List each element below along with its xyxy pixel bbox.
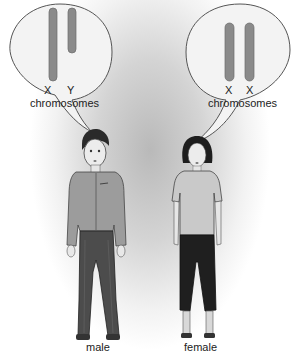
female-label: female — [184, 341, 217, 353]
right-chromosomes-caption: chromosomes — [208, 97, 277, 109]
right-speech-bubble — [186, 4, 290, 142]
male-figure — [67, 129, 126, 340]
left-speech-bubble — [10, 4, 112, 132]
x-chromosome-label: X — [246, 84, 253, 96]
sex-chromosome-diagram: X Y chromosomes X X chromosomes male fem… — [0, 0, 294, 358]
y-chromosome-label: Y — [67, 84, 74, 96]
x-chromosome-icon — [49, 8, 57, 81]
y-chromosome-icon — [68, 8, 76, 53]
x-chromosome-icon — [245, 23, 254, 81]
left-chromosomes-caption: chromosomes — [30, 97, 99, 109]
male-label: male — [86, 341, 110, 353]
female-figure — [172, 136, 222, 338]
illustration — [0, 0, 294, 358]
x-chromosome-label: X — [44, 84, 51, 96]
x-chromosome-icon — [225, 23, 234, 81]
x-chromosome-label: X — [225, 84, 232, 96]
